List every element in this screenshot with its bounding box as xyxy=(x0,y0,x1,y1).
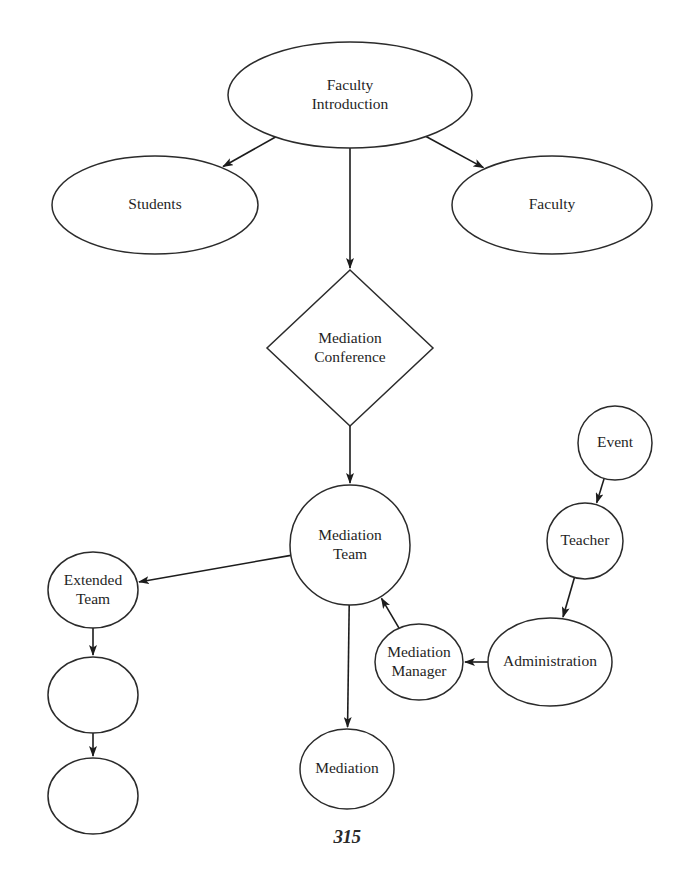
page-canvas: FacultyIntroductionStudentsFacultyMediat… xyxy=(0,0,694,891)
students-label: Students xyxy=(128,195,181,212)
node-extended-team-child-2 xyxy=(48,758,138,834)
node-extended-team-child-1 xyxy=(48,657,138,733)
node-event: Event xyxy=(578,406,652,480)
teacher-label: Teacher xyxy=(561,531,611,548)
faculty-label: Faculty xyxy=(529,195,576,212)
node-mediation-conference: MediationConference xyxy=(267,270,433,426)
event-label: Event xyxy=(597,433,634,450)
page-number: 315 xyxy=(0,826,694,848)
node-administration: Administration xyxy=(488,618,612,706)
node-teacher: Teacher xyxy=(547,503,623,579)
mediation-flowchart: FacultyIntroductionStudentsFacultyMediat… xyxy=(0,0,694,891)
extended-team-child-1-shape xyxy=(48,657,138,733)
extended-team-child-2-shape xyxy=(48,758,138,834)
node-mediation: Mediation xyxy=(300,729,394,809)
edge-faculty-introduction-students xyxy=(223,137,275,167)
node-faculty-introduction: FacultyIntroduction xyxy=(228,42,472,148)
edge-mediation-team-extended-team xyxy=(139,555,291,582)
node-extended-team: ExtendedTeam xyxy=(48,552,138,628)
node-mediation-manager: MediationManager xyxy=(375,624,463,700)
edge-mediation-manager-mediation-team xyxy=(382,598,400,628)
node-mediation-team: MediationTeam xyxy=(290,485,410,605)
node-students: Students xyxy=(52,156,258,254)
edge-mediation-team-mediation xyxy=(348,605,350,727)
edge-faculty-introduction-faculty xyxy=(426,136,483,167)
edge-event-teacher xyxy=(597,478,604,502)
administration-label: Administration xyxy=(503,652,597,669)
mediation-label: Mediation xyxy=(315,759,379,776)
node-faculty: Faculty xyxy=(452,156,652,254)
edge-teacher-administration xyxy=(563,578,574,617)
